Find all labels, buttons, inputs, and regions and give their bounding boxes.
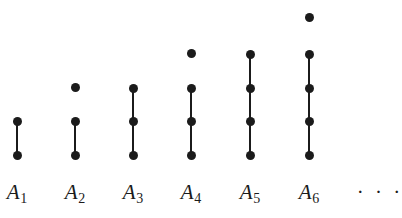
label-base: A (181, 180, 194, 204)
label-base: A (123, 180, 136, 204)
diagram-node (305, 50, 314, 59)
diagram-ellipsis: · · · (357, 182, 402, 203)
label-subscript: 6 (312, 191, 320, 206)
diagram-node-isolated (305, 13, 314, 22)
diagram-label-a2: A2 (65, 182, 85, 206)
diagram-node (305, 151, 314, 160)
diagram-edge (16, 121, 19, 155)
diagram-edge (249, 54, 252, 155)
diagram-node (246, 84, 255, 93)
diagram-node (129, 84, 138, 93)
label-base: A (299, 180, 312, 204)
diagram-node (129, 151, 138, 160)
diagram-node-isolated (71, 83, 80, 92)
diagram-edge (74, 121, 77, 155)
diagram-node (246, 117, 255, 126)
diagram-node (129, 117, 138, 126)
label-base: A (7, 180, 20, 204)
diagram-node (187, 117, 196, 126)
diagram-node (246, 151, 255, 160)
label-subscript: 5 (253, 191, 261, 206)
diagram-node (305, 117, 314, 126)
label-subscript: 1 (20, 191, 28, 206)
label-subscript: 4 (194, 191, 202, 206)
diagram-node (305, 84, 314, 93)
diagram-node (71, 117, 80, 126)
label-base: A (65, 180, 78, 204)
diagram-node-isolated (187, 49, 196, 58)
diagram-node (13, 117, 22, 126)
diagram-node (13, 151, 22, 160)
diagram-label-a4: A4 (181, 182, 201, 206)
diagram-label-a6: A6 (299, 182, 319, 206)
diagram-node (187, 84, 196, 93)
diagram-node (246, 50, 255, 59)
diagram-label-a5: A5 (240, 182, 260, 206)
diagram-label-a1: A1 (7, 182, 27, 206)
diagram-node (71, 151, 80, 160)
diagram-label-a3: A3 (123, 182, 143, 206)
diagram-edge (308, 54, 311, 155)
label-base: A (240, 180, 253, 204)
label-subscript: 2 (78, 191, 86, 206)
label-subscript: 3 (136, 191, 144, 206)
dynkin-diagram-figure: A1A2A3A4A5A6· · · (0, 0, 402, 218)
diagram-node (187, 151, 196, 160)
